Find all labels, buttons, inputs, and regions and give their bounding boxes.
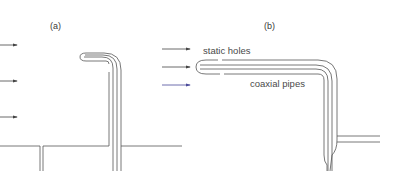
- panel-b-geometry: [196, 60, 380, 171]
- panel-a-label: (a): [50, 21, 61, 31]
- static-holes-label: static holes: [203, 45, 251, 56]
- diagram-canvas: [0, 0, 415, 171]
- pitot-tube-outer: [121, 146, 182, 171]
- panel-b-label: (b): [264, 21, 275, 31]
- wall-left: [0, 146, 40, 171]
- wall-tap-right: [43, 72, 109, 171]
- pitot-tube-inner-2: [85, 55, 117, 171]
- panel-b-flow-arrows: [162, 49, 190, 85]
- panel-a-flow-arrows: [0, 45, 17, 117]
- outer-top: [196, 60, 220, 74]
- panel-a-geometry: [0, 53, 182, 171]
- coaxial-pipes-label: coaxial pipes: [250, 78, 305, 89]
